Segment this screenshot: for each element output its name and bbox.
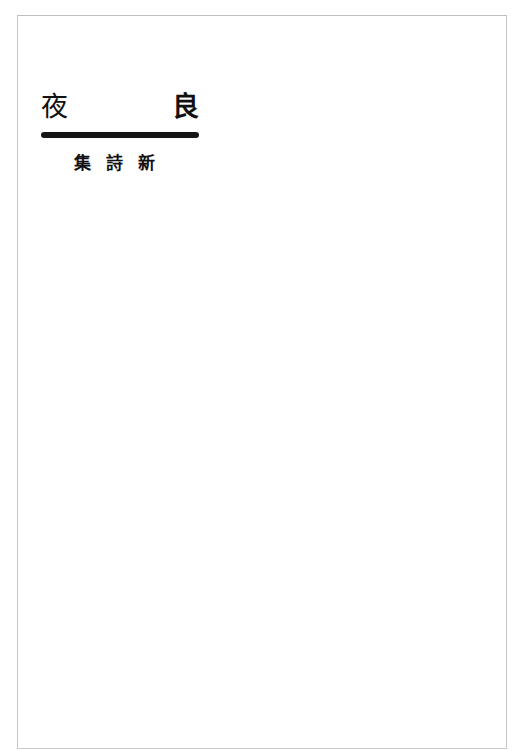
book-title: 夜 良 [40,87,199,127]
book-subtitle: 集詩新 [74,151,170,175]
title-underline-bar [41,132,199,138]
title-char-right: 良 [172,87,199,127]
title-char-left: 夜 [41,87,68,127]
page-header-bleed [0,0,530,8]
